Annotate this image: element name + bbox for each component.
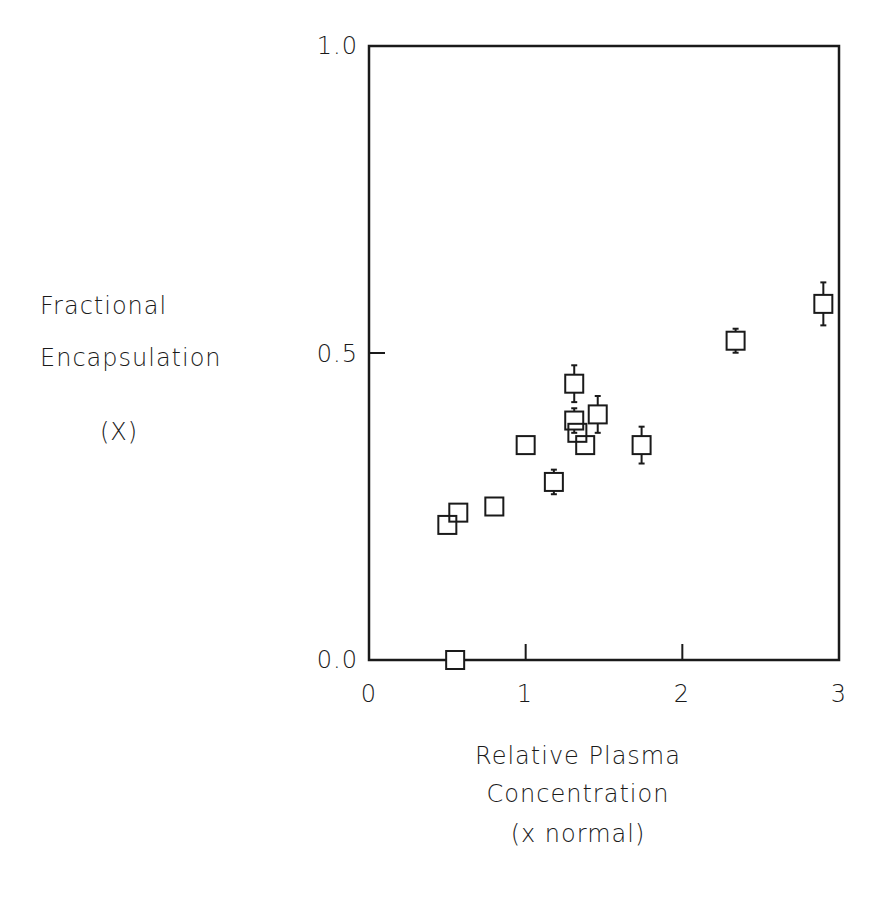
y-axis-label-line-3: (X) bbox=[100, 418, 138, 446]
scatter-plot bbox=[0, 0, 887, 904]
x-tick-label-3: 3 bbox=[831, 680, 847, 708]
plot-frame bbox=[369, 46, 839, 660]
x-axis-label-line-3: (x normal) bbox=[511, 820, 646, 848]
x-tick-label-1: 1 bbox=[517, 680, 533, 708]
data-point-square bbox=[517, 436, 535, 454]
x-tick-label-2: 2 bbox=[674, 680, 690, 708]
data-point-square bbox=[589, 405, 607, 423]
data-point-square bbox=[449, 504, 467, 522]
y-axis-label-line-2: Encapsulation bbox=[40, 344, 222, 372]
y-axis-label-line-1: Fractional bbox=[40, 292, 167, 320]
data-point-square bbox=[727, 332, 745, 350]
data-point-square bbox=[545, 473, 563, 491]
data-point-square bbox=[633, 436, 651, 454]
x-tick-label-0: 0 bbox=[361, 680, 377, 708]
data-point-square bbox=[565, 375, 583, 393]
y-tick-label-2: 1.0 bbox=[317, 32, 358, 60]
y-tick-label-0: 0.0 bbox=[317, 646, 358, 674]
data-point-square bbox=[438, 516, 456, 534]
x-axis-label-line-1: Relative Plasma bbox=[475, 742, 681, 770]
data-point-square bbox=[576, 436, 594, 454]
x-axis-label-line-2: Concentration bbox=[487, 780, 670, 808]
y-tick-label-1: 0.5 bbox=[317, 340, 358, 368]
data-point-square bbox=[485, 498, 503, 516]
data-point-square bbox=[446, 651, 464, 669]
data-point-square bbox=[814, 295, 832, 313]
